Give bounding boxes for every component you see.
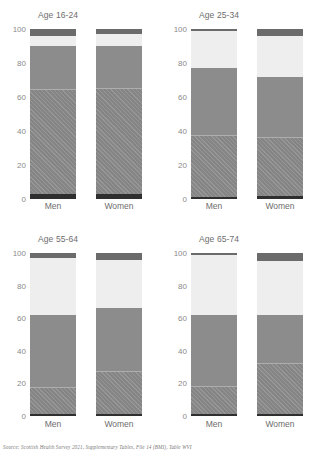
plot-area bbox=[30, 253, 142, 416]
panel-title: Age 65-74 bbox=[199, 234, 239, 244]
y-axis: 100806040200 bbox=[161, 253, 191, 416]
bar-women bbox=[257, 253, 303, 416]
source-note: Source: Scottish Health Survey 2021, Sup… bbox=[3, 444, 192, 450]
stacked-bar bbox=[191, 29, 237, 199]
bar-group bbox=[191, 253, 303, 416]
y-axis-tick: 100 bbox=[13, 25, 26, 34]
bar-segment-obese bbox=[96, 260, 142, 309]
bar-men bbox=[191, 29, 237, 199]
x-label-men: Men bbox=[191, 201, 237, 211]
stacked-bar bbox=[30, 29, 76, 199]
y-axis-tick: 80 bbox=[178, 281, 187, 290]
y-axis: 100806040200 bbox=[0, 29, 30, 199]
x-axis-labels: Men Women bbox=[191, 419, 303, 429]
bar-segment-healthy-weight bbox=[191, 387, 237, 415]
bar-segment-overweight bbox=[191, 315, 237, 387]
bar-segment-underweight bbox=[257, 196, 303, 199]
panel-title: Age 55-64 bbox=[38, 234, 78, 244]
bar-women bbox=[96, 29, 142, 199]
y-axis-tick: 100 bbox=[174, 249, 187, 258]
y-axis: 100806040200 bbox=[161, 29, 191, 199]
bar-segment-healthy-weight bbox=[96, 89, 142, 194]
bar-segment-overweight bbox=[96, 46, 142, 89]
bar-segment-overweight bbox=[257, 315, 303, 364]
stacked-bar bbox=[30, 253, 76, 416]
bar-segment-underweight bbox=[191, 414, 237, 416]
bar-women bbox=[257, 29, 303, 199]
y-axis-tick: 20 bbox=[178, 161, 187, 170]
bar-segment-obese bbox=[191, 255, 237, 315]
bar-segment-overweight bbox=[257, 77, 303, 138]
chart-sheet: Age 16-24 100806040200 Men Women Age 25- bbox=[0, 0, 322, 453]
panel-title: Age 16-24 bbox=[38, 10, 78, 20]
panel-title: Age 25-34 bbox=[199, 10, 239, 20]
y-axis-tick: 0 bbox=[22, 195, 26, 204]
stacked-bar bbox=[191, 253, 237, 416]
bar-segment-morbidly-obese bbox=[257, 253, 303, 261]
bar-segment-underweight bbox=[96, 414, 142, 416]
y-axis-tick: 40 bbox=[17, 127, 26, 136]
y-axis-tick: 60 bbox=[17, 314, 26, 323]
plot-area bbox=[191, 253, 303, 416]
panel-age-25-34: Age 25-34 100806040200 Men Women bbox=[161, 0, 322, 226]
bar-segment-obese bbox=[257, 36, 303, 77]
bar-segment-healthy-weight bbox=[191, 136, 237, 197]
y-axis-tick: 20 bbox=[17, 161, 26, 170]
bar-group bbox=[30, 29, 142, 199]
y-axis-tick: 60 bbox=[17, 93, 26, 102]
y-axis-tick: 40 bbox=[17, 346, 26, 355]
bar-women bbox=[96, 253, 142, 416]
plot-area bbox=[191, 29, 303, 199]
bar-segment-underweight bbox=[30, 194, 76, 199]
x-label-men: Men bbox=[30, 419, 76, 429]
bar-segment-underweight bbox=[96, 194, 142, 199]
y-axis-tick: 100 bbox=[174, 25, 187, 34]
y-axis-tick: 0 bbox=[22, 412, 26, 421]
bar-group bbox=[30, 253, 142, 416]
x-label-men: Men bbox=[191, 419, 237, 429]
bar-group bbox=[191, 29, 303, 199]
stacked-bar bbox=[96, 29, 142, 199]
bar-segment-overweight bbox=[96, 308, 142, 372]
x-axis-labels: Men Women bbox=[30, 419, 142, 429]
bar-segment-obese bbox=[30, 258, 76, 315]
x-label-women: Women bbox=[96, 419, 142, 429]
y-axis-tick: 80 bbox=[17, 59, 26, 68]
y-axis-tick: 20 bbox=[178, 379, 187, 388]
bar-segment-obese bbox=[191, 31, 237, 68]
bar-segment-healthy-weight bbox=[30, 90, 76, 194]
y-axis-tick: 40 bbox=[178, 346, 187, 355]
y-axis-tick: 0 bbox=[183, 412, 187, 421]
bar-segment-healthy-weight bbox=[257, 364, 303, 415]
y-axis-tick: 100 bbox=[13, 249, 26, 258]
bar-segment-morbidly-obese bbox=[257, 29, 303, 36]
x-axis-labels: Men Women bbox=[30, 201, 142, 211]
panel-age-55-64: Age 55-64 100806040200 Men Women bbox=[0, 226, 161, 434]
bar-segment-overweight bbox=[30, 315, 76, 388]
x-axis-labels: Men Women bbox=[191, 201, 303, 211]
plot-area bbox=[30, 29, 142, 199]
stacked-bar bbox=[257, 253, 303, 416]
bar-segment-underweight bbox=[257, 414, 303, 416]
bar-segment-healthy-weight bbox=[30, 388, 76, 414]
x-label-women: Women bbox=[257, 419, 303, 429]
y-axis-tick: 20 bbox=[17, 379, 26, 388]
bar-men bbox=[30, 29, 76, 199]
bar-segment-obese bbox=[257, 261, 303, 315]
y-axis-tick: 0 bbox=[183, 195, 187, 204]
y-axis-tick: 40 bbox=[178, 127, 187, 136]
panel-grid: Age 16-24 100806040200 Men Women Age 25- bbox=[0, 0, 322, 434]
x-label-women: Women bbox=[96, 201, 142, 211]
bar-segment-healthy-weight bbox=[96, 372, 142, 414]
panel-age-65-74: Age 65-74 100806040200 Men Women bbox=[161, 226, 322, 434]
stacked-bar bbox=[96, 253, 142, 416]
y-axis-tick: 60 bbox=[178, 93, 187, 102]
bar-men bbox=[191, 253, 237, 416]
x-label-men: Men bbox=[30, 201, 76, 211]
panel-age-16-24: Age 16-24 100806040200 Men Women bbox=[0, 0, 161, 226]
bar-segment-morbidly-obese bbox=[30, 29, 76, 36]
y-axis-tick: 80 bbox=[17, 281, 26, 290]
bar-men bbox=[30, 253, 76, 416]
y-axis-tick: 80 bbox=[178, 59, 187, 68]
bar-segment-obese bbox=[30, 36, 76, 46]
